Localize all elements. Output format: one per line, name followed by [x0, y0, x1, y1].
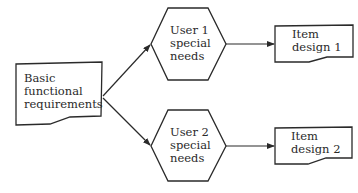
- basic-requirements-label: Basic functional requirements: [24, 72, 103, 111]
- arrow-basic-to-user1: [103, 45, 150, 96]
- user1-line-3: needs: [170, 50, 211, 63]
- user1-needs-label: User 1 special needs: [170, 24, 211, 63]
- item2-line-2: design 2: [291, 143, 341, 156]
- arrow-basic-to-user2: [103, 98, 150, 145]
- item1-line-2: design 1: [292, 41, 342, 54]
- user2-needs-label: User 2 special needs: [170, 126, 211, 165]
- item2-design-label: Item design 2: [291, 130, 341, 156]
- item1-design-label: Item design 1: [292, 28, 342, 54]
- basic-line-3: requirements: [24, 98, 103, 111]
- user2-line-3: needs: [170, 152, 211, 165]
